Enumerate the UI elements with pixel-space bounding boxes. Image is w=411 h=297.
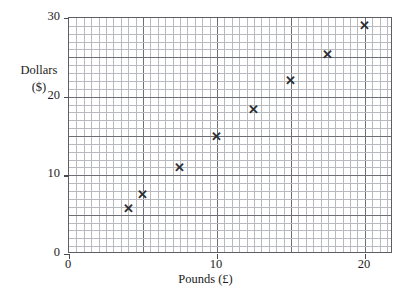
gridline-y-minor	[69, 65, 391, 66]
gridline-x-minor	[343, 18, 344, 252]
gridline-x-minor	[165, 18, 166, 252]
gridline-x-minor	[224, 18, 225, 252]
y-tick-mark	[64, 97, 69, 98]
gridline-y-minor	[69, 105, 391, 106]
gridline-y-minor	[69, 191, 391, 192]
gridline-x-minor	[276, 18, 277, 252]
gridline-x-minor	[372, 18, 373, 252]
gridline-y-minor	[69, 230, 391, 231]
gridline-y-minor	[69, 42, 391, 43]
gridline-x-minor	[387, 18, 388, 252]
gridline-y-minor	[69, 160, 391, 161]
gridline-y-minor	[69, 128, 391, 129]
gridline-x-minor	[121, 18, 122, 252]
gridline-y-minor	[69, 49, 391, 50]
gridline-x-minor	[247, 18, 248, 252]
gridline-x-minor	[150, 18, 151, 252]
gridline-x-minor	[91, 18, 92, 252]
gridline-y-minor	[69, 223, 391, 224]
gridline-x-minor	[113, 18, 114, 252]
gridline-y-minor	[69, 144, 391, 145]
gridline-x-minor	[261, 18, 262, 252]
data-point: ✕	[284, 74, 297, 87]
gridline-x-major	[291, 18, 292, 252]
gridline-y-minor	[69, 238, 391, 239]
x-tick-label: 0	[48, 257, 88, 272]
gridline-x-minor	[306, 18, 307, 252]
data-point: ✕	[247, 103, 260, 116]
gridline-x-minor	[136, 18, 137, 252]
gridline-y-minor	[69, 246, 391, 247]
gridline-y-minor	[69, 112, 391, 113]
gridline-x-minor	[195, 18, 196, 252]
gridline-x-minor	[232, 18, 233, 252]
gridline-x-minor	[254, 18, 255, 252]
y-tick-mark	[64, 18, 69, 19]
gridline-x-minor	[357, 18, 358, 252]
gridline-x-minor	[187, 18, 188, 252]
gridline-y-major	[69, 136, 391, 137]
data-point: ✕	[122, 202, 135, 215]
gridline-x-minor	[76, 18, 77, 252]
gridline-y-minor	[69, 183, 391, 184]
gridline-y-minor	[69, 207, 391, 208]
data-point: ✕	[210, 130, 223, 143]
gridline-x-minor	[239, 18, 240, 252]
gridline-y-minor	[69, 73, 391, 74]
x-tick-label: 20	[344, 257, 384, 272]
gridline-x-minor	[202, 18, 203, 252]
gridline-y-major	[69, 175, 391, 176]
gridline-x-minor	[180, 18, 181, 252]
gridline-y-minor	[69, 81, 391, 82]
gridline-x-minor	[269, 18, 270, 252]
gridline-x-minor	[298, 18, 299, 252]
data-point: ✕	[173, 161, 186, 174]
y-tick-label: 10	[20, 166, 60, 181]
cropped-header-text	[72, 0, 129, 3]
gridline-x-minor	[313, 18, 314, 252]
gridline-x-minor	[84, 18, 85, 252]
gridline-x-major	[143, 18, 144, 252]
gridline-y-major	[69, 215, 391, 216]
data-point: ✕	[136, 188, 149, 201]
gridline-x-minor	[99, 18, 100, 252]
gridline-x-minor	[106, 18, 107, 252]
gridline-x-minor	[128, 18, 129, 252]
gridline-x-minor	[158, 18, 159, 252]
gridline-x-minor	[173, 18, 174, 252]
y-tick-mark	[64, 175, 69, 176]
gridline-y-minor	[69, 120, 391, 121]
x-tick-label: 10	[196, 257, 236, 272]
gridline-y-minor	[69, 167, 391, 168]
gridline-y-minor	[69, 152, 391, 153]
scatter-plot-figure: Dollars ($) ✕✕✕✕✕✕✕✕ 010203001020 Pounds…	[0, 0, 411, 297]
y-tick-label: 30	[20, 9, 60, 24]
gridline-y-minor	[69, 34, 391, 35]
y-tick-label: 20	[20, 88, 60, 103]
grid	[69, 18, 391, 252]
gridline-y-major	[69, 97, 391, 98]
gridline-y-minor	[69, 26, 391, 27]
gridline-x-minor	[380, 18, 381, 252]
gridline-x-minor	[350, 18, 351, 252]
y-axis-title-line1: Dollars	[8, 62, 70, 79]
data-point: ✕	[358, 19, 371, 32]
x-axis-title: Pounds (£)	[0, 272, 411, 287]
gridline-x-major	[365, 18, 366, 252]
gridline-y-minor	[69, 89, 391, 90]
gridline-y-major	[69, 57, 391, 58]
data-point: ✕	[321, 48, 334, 61]
plot-area: ✕✕✕✕✕✕✕✕	[68, 17, 392, 253]
gridline-x-minor	[284, 18, 285, 252]
gridline-y-minor	[69, 199, 391, 200]
cropped-header-strip	[0, 0, 411, 7]
gridline-x-minor	[335, 18, 336, 252]
